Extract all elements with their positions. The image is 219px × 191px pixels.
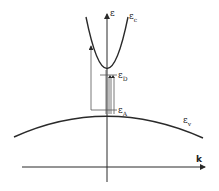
band-diagram — [0, 0, 219, 191]
conduction-band-label: εc — [129, 12, 137, 23]
donor-level-label: εD — [118, 71, 127, 82]
arrow-heads — [108, 75, 115, 78]
valence-band-curve — [14, 116, 203, 138]
k-axis-label: k — [196, 155, 202, 164]
acceptor-level-label: εA — [118, 106, 127, 117]
valence-band-label: εv — [183, 116, 191, 127]
energy-axis-label: ε — [110, 9, 115, 18]
